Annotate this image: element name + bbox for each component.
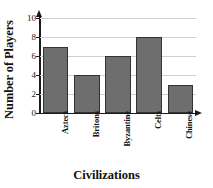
gridline <box>40 37 196 38</box>
bar <box>168 85 194 114</box>
y-axis-tick-label: 0 <box>20 109 36 118</box>
bar-chart: Number of Players 0246810 AztecsBritonsB… <box>0 0 213 188</box>
x-axis-arrow-icon <box>195 110 202 116</box>
bar <box>74 75 100 113</box>
x-axis-category-label: Aztecs <box>60 111 70 163</box>
y-axis-tick-label: 8 <box>20 33 36 42</box>
y-axis-tick-labels: 0246810 <box>18 18 36 113</box>
y-axis-tick-label: 2 <box>20 90 36 99</box>
x-axis-category-label: Byzantine <box>122 111 132 163</box>
y-axis-title: Number of Players <box>2 15 17 125</box>
x-axis-title: Civilizations <box>0 168 213 183</box>
bar <box>43 47 69 114</box>
gridline <box>40 18 196 19</box>
x-axis-category-label: Celts <box>153 111 163 163</box>
y-axis-arrow-icon <box>36 10 42 17</box>
y-axis-tick-label: 6 <box>20 52 36 61</box>
x-axis-category-label: Britons <box>91 111 101 163</box>
plot-area <box>40 18 196 113</box>
bar <box>105 56 131 113</box>
y-axis-tick-label: 4 <box>20 71 36 80</box>
x-axis-category-labels: AztecsBritonsByzantineCeltsChinese <box>40 113 196 165</box>
bar <box>136 37 162 113</box>
x-axis-category-label: Chinese <box>184 111 194 163</box>
y-axis-tick-label: 10 <box>20 14 36 23</box>
